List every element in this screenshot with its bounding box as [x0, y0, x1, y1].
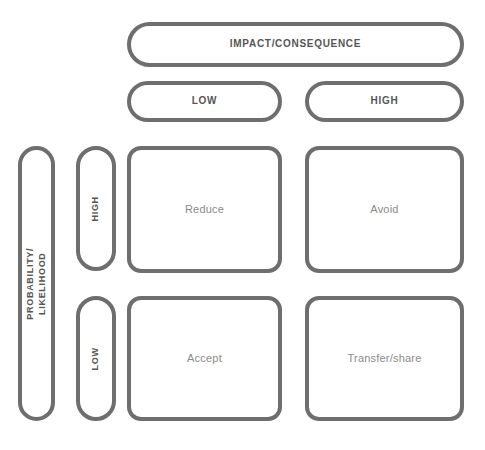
impact-axis-header: IMPACT/CONSEQUENCE: [127, 22, 464, 67]
probability-axis-label-line2: LIKELIHOOD: [37, 252, 47, 315]
matrix-cell-transfer-share-label: Transfer/share: [348, 351, 422, 365]
matrix-cell-avoid[interactable]: Avoid: [305, 146, 464, 273]
matrix-cell-accept[interactable]: Accept: [127, 296, 282, 421]
probability-axis-label: PROBABILITY/ LIKELIHOOD: [25, 248, 48, 320]
matrix-cell-transfer-share[interactable]: Transfer/share: [305, 296, 464, 421]
row-header-high: HIGH: [76, 146, 116, 271]
risk-matrix-diagram: IMPACT/CONSEQUENCE LOW HIGH PROBABILITY/…: [0, 0, 485, 450]
matrix-cell-avoid-label: Avoid: [370, 202, 398, 216]
column-header-low: LOW: [127, 81, 282, 122]
row-header-low-label: LOW: [90, 347, 102, 370]
column-header-low-label: LOW: [192, 95, 217, 108]
matrix-cell-reduce-label: Reduce: [185, 202, 224, 216]
matrix-cell-accept-label: Accept: [187, 351, 222, 365]
probability-axis-header: PROBABILITY/ LIKELIHOOD: [18, 146, 55, 421]
matrix-cell-reduce[interactable]: Reduce: [127, 146, 282, 273]
impact-axis-label: IMPACT/CONSEQUENCE: [230, 38, 361, 51]
row-header-low: LOW: [76, 296, 116, 421]
column-header-high-label: HIGH: [371, 95, 399, 108]
column-header-high: HIGH: [305, 81, 464, 122]
probability-axis-label-line1: PROBABILITY/: [25, 248, 35, 320]
row-header-high-label: HIGH: [90, 196, 102, 221]
